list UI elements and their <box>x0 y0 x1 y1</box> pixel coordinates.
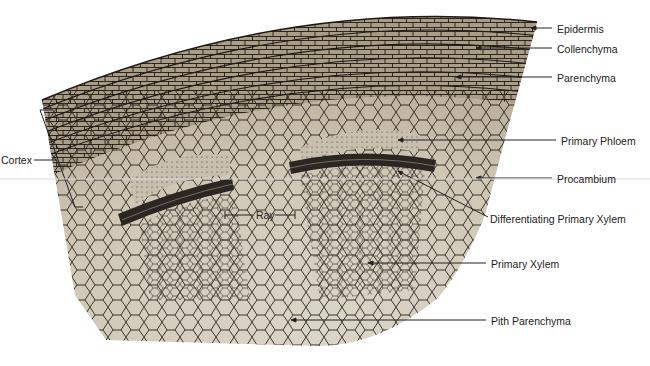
tissue-wedge <box>0 0 650 366</box>
label-primary-phloem: Primary Phloem <box>561 135 636 147</box>
stem-cross-section-diagram <box>0 0 650 366</box>
label-primary-xylem: Primary Xylem <box>491 258 559 270</box>
label-parenchyma: Parenchyma <box>557 72 616 84</box>
label-differentiating-primary-xylem: Differentiating Primary Xylem <box>490 213 626 225</box>
label-collenchyma: Collenchyma <box>557 43 618 55</box>
label-pith-parenchyma: Pith Parenchyma <box>491 315 571 327</box>
label-procambium: Procambium <box>557 173 616 185</box>
label-epidermis: Epidermis <box>557 23 604 35</box>
label-cortex: Cortex <box>1 154 32 166</box>
label-ray: Ray <box>256 209 275 221</box>
